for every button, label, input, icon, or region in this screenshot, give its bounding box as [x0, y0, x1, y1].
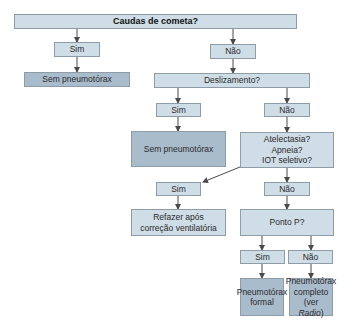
- pneumo-formal-line-1: Pneumotórax: [237, 287, 288, 298]
- pneumo-formal-line-2: formal: [250, 297, 274, 308]
- node-pneumotorax-formal: Pneumotórax formal: [240, 278, 284, 316]
- refazer-line-1: Refazer após: [153, 212, 204, 223]
- refazer-line-2: correção ventilatória: [140, 223, 217, 234]
- node-deslizamento-sim: Sim: [156, 103, 201, 117]
- node-pneumotorax-completo: Pneumotórax completo (ver Radio): [289, 278, 333, 316]
- node-deslizamento-nao: Não: [264, 103, 310, 117]
- apneia-line: Apneia?: [271, 145, 302, 156]
- node-sem-pneumotorax-1: Sem pneumotórax: [24, 72, 130, 87]
- pneumo-completo-line-2: completo: [294, 287, 329, 298]
- node-ponto-p: Ponto P?: [240, 209, 334, 236]
- node-sem-pneumotorax-2: Sem pneumotórax: [131, 131, 226, 167]
- node-refazer: Refazer após correção ventilatória: [131, 209, 226, 236]
- node-caudas-de-cometa: Caudas de cometa?: [14, 14, 297, 29]
- node-ponto-p-nao: Não: [288, 250, 333, 264]
- radio-italic: Radio: [298, 308, 320, 318]
- node-caudas-nao: Não: [210, 44, 256, 59]
- ver-prefix: (ver: [304, 297, 319, 307]
- ver-suffix: ): [321, 308, 324, 318]
- node-atelectasia-sim: Sim: [156, 182, 201, 196]
- atelectasia-line: Atelectasia?: [264, 134, 310, 145]
- node-atelectasia-apneia-iot: Atelectasia? Apneia? IOT seletivo?: [240, 132, 334, 168]
- pneumo-completo-line-3: (ver Radio): [290, 297, 332, 318]
- iot-seletivo-line: IOT seletivo?: [262, 155, 312, 166]
- node-atelectasia-nao: Não: [264, 182, 310, 196]
- node-ponto-p-sim: Sim: [240, 250, 285, 264]
- pneumo-completo-line-1: Pneumotórax: [286, 276, 337, 287]
- node-caudas-sim: Sim: [54, 42, 100, 57]
- node-deslizamento: Deslizamento?: [154, 73, 310, 88]
